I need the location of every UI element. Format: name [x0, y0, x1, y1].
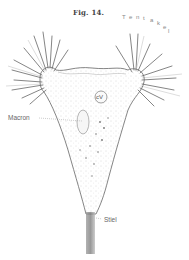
organism-drawing	[0, 0, 189, 260]
cell-body	[40, 67, 144, 214]
macronucleus	[77, 110, 89, 134]
macron-label: Macron	[8, 114, 30, 121]
stalk	[86, 212, 95, 254]
stiel-label: Stiel	[104, 216, 117, 223]
cv-label: cV	[96, 94, 103, 100]
